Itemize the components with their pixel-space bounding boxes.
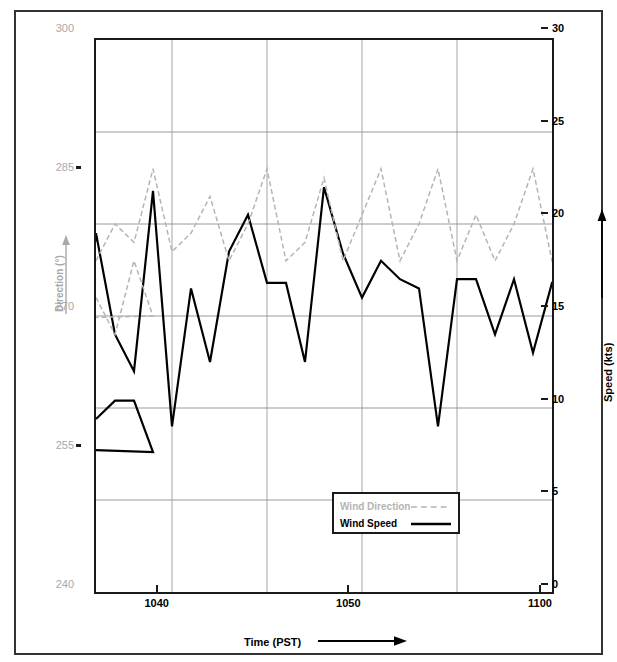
right-axis-tick-5: 5 <box>552 486 558 497</box>
right-axis-tick-10: 10 <box>552 393 564 404</box>
bottom-axis-tick-1100: 1100 <box>528 598 552 609</box>
legend-label-wind-direction: Wind Direction <box>340 501 410 512</box>
bottom-axis-title: Time (PST) <box>244 636 301 648</box>
series-lines <box>96 40 552 592</box>
right-axis-tick-mark <box>541 120 548 122</box>
left-axis-title: Direction (°) <box>54 255 65 312</box>
right-axis-tick-15: 15 <box>552 301 564 312</box>
right-axis-tick-0: 0 <box>552 579 558 590</box>
right-axis-tick-mark <box>541 583 548 585</box>
legend: Wind Direction Wind Speed <box>332 492 460 534</box>
bottom-axis-right-arrow-icon <box>318 634 408 648</box>
left-axis-tick-mark <box>76 166 81 169</box>
figure-outer-frame: Wind Direction Wind Speed 30028527025524… <box>14 10 603 655</box>
left-axis-tick-300: 300 <box>40 23 74 34</box>
legend-sample-dashed-line <box>410 502 452 512</box>
series-wind-speed <box>96 132 552 482</box>
left-axis-tick-240: 240 <box>40 579 74 590</box>
bottom-axis-tick-1040: 1040 <box>144 598 168 609</box>
right-axis-tick-25: 25 <box>552 115 564 126</box>
bottom-axis-tick-mark <box>539 585 541 592</box>
right-axis-title: Speed (kts) <box>602 343 614 402</box>
left-axis-tick-255: 255 <box>40 440 74 451</box>
legend-item-wind-direction: Wind Direction <box>340 498 452 515</box>
right-axis-tick-20: 20 <box>552 208 564 219</box>
legend-item-wind-speed: Wind Speed <box>340 515 452 532</box>
right-axis-tick-mark <box>541 490 548 492</box>
right-axis-tick-mark <box>541 27 548 29</box>
bottom-axis-tick-1050: 1050 <box>336 598 360 609</box>
left-axis-tick-285: 285 <box>40 162 74 173</box>
right-axis-tick-mark <box>541 212 548 214</box>
bottom-axis-tick-mark <box>156 585 158 592</box>
bottom-axis-tick-mark <box>347 585 349 592</box>
right-axis-up-arrow-icon <box>596 208 608 298</box>
right-axis-tick-30: 30 <box>552 23 564 34</box>
right-axis-tick-mark <box>541 305 548 307</box>
right-axis-tick-mark <box>541 398 548 400</box>
legend-label-wind-speed: Wind Speed <box>340 518 397 529</box>
series-wind-direction <box>96 40 552 482</box>
plot-area <box>94 38 554 594</box>
legend-sample-solid-line <box>410 519 452 529</box>
figure-page: Wind Direction Wind Speed 30028527025524… <box>0 0 617 662</box>
left-axis-tick-mark <box>76 444 81 447</box>
